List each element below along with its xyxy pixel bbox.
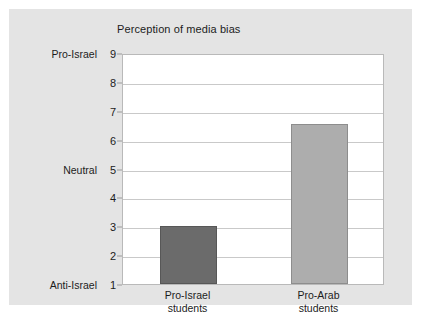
y-axis-tick-label: 9 xyxy=(110,48,116,60)
y-axis-tick-label: 8 xyxy=(110,77,116,89)
y-axis-tick-label: 1 xyxy=(110,279,116,291)
gridline xyxy=(123,113,383,114)
plot-area xyxy=(122,54,384,285)
x-axis-category-label: Pro-Israel students xyxy=(122,289,253,315)
y-axis-tick-label: 6 xyxy=(110,135,116,147)
y-axis-category-label: Neutral xyxy=(63,164,97,176)
chart-figure: Perception of media bias 123456789Pro-Is… xyxy=(0,0,425,323)
y-axis-tick-label: 4 xyxy=(110,192,116,204)
bar xyxy=(291,124,348,284)
y-axis-tick-label: 2 xyxy=(110,250,116,262)
bar-fill xyxy=(160,226,217,284)
y-axis: 123456789Pro-IsraelNeutralAnti-Israel xyxy=(9,54,122,285)
y-axis-tick-label: 3 xyxy=(110,221,116,233)
y-axis-tick-label: 7 xyxy=(110,106,116,118)
y-axis-tick-label: 5 xyxy=(110,164,116,176)
chart-panel: Perception of media bias 123456789Pro-Is… xyxy=(9,9,412,305)
chart-title: Perception of media bias xyxy=(117,23,240,35)
bar-fill xyxy=(291,124,348,284)
y-axis-category-label: Anti-Israel xyxy=(50,279,97,291)
bar xyxy=(160,226,217,284)
gridline xyxy=(123,84,383,85)
x-axis-category-label: Pro-Arab students xyxy=(253,289,384,315)
y-axis-category-label: Pro-Israel xyxy=(51,48,97,60)
